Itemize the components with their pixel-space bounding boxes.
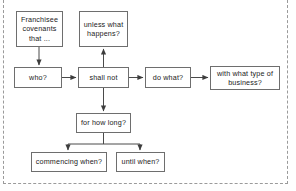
node-franchisee-covenants[interactable]: Franchisee covenants that ... bbox=[16, 11, 63, 47]
node-who[interactable]: who? bbox=[14, 67, 62, 88]
node-for-how-long[interactable]: for how long? bbox=[76, 113, 131, 133]
figure-page: Franchisee covenants that ... unless wha… bbox=[0, 0, 296, 191]
node-until-when[interactable]: until when? bbox=[116, 152, 165, 172]
node-do-what[interactable]: do what? bbox=[145, 67, 191, 88]
node-unless-what-happens[interactable]: unless what happens? bbox=[79, 11, 128, 47]
node-with-what-type-of-business[interactable]: with what type of business? bbox=[210, 66, 280, 90]
node-commencing-when[interactable]: commencing when? bbox=[31, 152, 107, 172]
node-shall-not[interactable]: shall not bbox=[78, 67, 129, 88]
